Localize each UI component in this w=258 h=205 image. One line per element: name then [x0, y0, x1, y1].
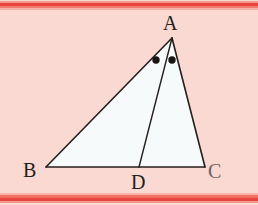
angle-mark-dac-dot-icon [168, 56, 175, 63]
vertex-label-a: A [163, 13, 177, 33]
vertex-label-d: D [131, 172, 145, 192]
vertex-label-c: C [208, 161, 221, 181]
angle-mark-bad-dot-icon [152, 56, 159, 63]
triangle-abc-shape [46, 38, 205, 167]
vertex-label-b: B [23, 160, 36, 180]
geometry-figure: A B D C [0, 0, 258, 205]
